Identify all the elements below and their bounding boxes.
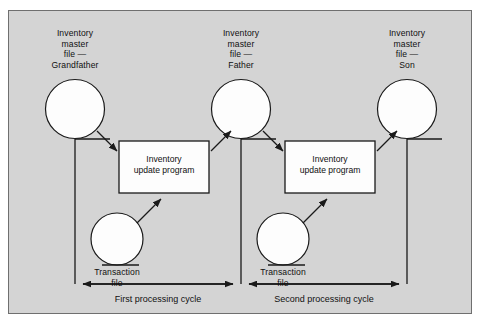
- arrow-transaction1-to-program1: [137, 199, 161, 223]
- diagram-panel: Inventory master file — Grandfather Inve…: [8, 10, 472, 314]
- arrow-father-to-program2: [263, 131, 283, 151]
- figure-root: Inventory master file — Grandfather Inve…: [0, 0, 481, 324]
- tape-symbol-son: [378, 80, 443, 140]
- arrow-program2-to-son: [377, 131, 397, 151]
- arrow-program1-to-father: [211, 131, 231, 151]
- arrow-grandfather-to-program1: [97, 131, 117, 151]
- transaction-file-label-2: Transaction file: [238, 267, 328, 288]
- tape-symbol-transaction-1: [91, 213, 143, 265]
- master-file-label-son: Inventory master file — Son: [357, 28, 457, 70]
- master-file-label-father: Inventory master file — Father: [191, 28, 291, 70]
- tape-symbol-grandfather: [46, 80, 111, 140]
- arrow-transaction2-to-program2: [303, 199, 327, 223]
- cycle-label-2: Second processing cycle: [244, 294, 404, 304]
- cycle-label-1: First processing cycle: [78, 294, 238, 304]
- master-file-label-grandfather: Inventory master file — Grandfather: [25, 28, 125, 70]
- process-box-label-1: Inventory update program: [121, 154, 207, 176]
- process-box-label-2: Inventory update program: [287, 154, 373, 176]
- transaction-file-label-1: Transaction file: [72, 267, 162, 288]
- tape-symbol-father: [212, 80, 277, 140]
- tape-symbol-transaction-2: [257, 213, 309, 265]
